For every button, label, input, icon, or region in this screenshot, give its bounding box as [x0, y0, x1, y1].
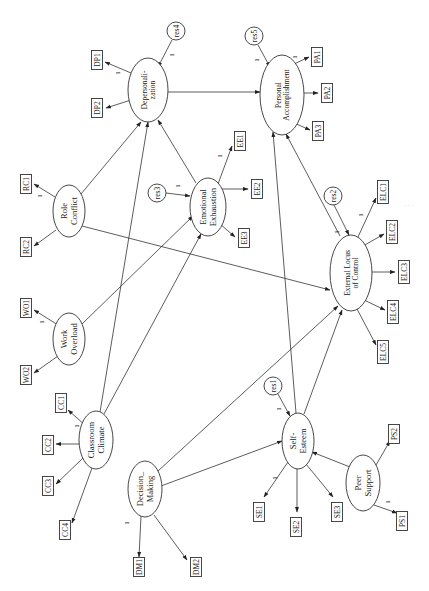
- indicator-label-text: PA2: [323, 86, 332, 99]
- indicator-label-text: ELC3: [400, 263, 409, 281]
- svg-text:1: 1: [38, 320, 46, 324]
- indicator-ee2: EE2: [252, 180, 263, 199]
- indicator-elc1: ELC1: [378, 181, 389, 204]
- indicator-label: SE2: [292, 521, 301, 534]
- indicator-ps2: PS2: [389, 425, 400, 444]
- path-dm-to-se: [161, 441, 282, 486]
- indicator-label: CC4: [61, 523, 70, 537]
- indicator-label: RC1: [22, 177, 31, 191]
- indicator-rc1: RC1: [21, 175, 32, 194]
- latent-se: Self-Esteem: [282, 413, 314, 469]
- indicator-label-text: CC3: [44, 479, 53, 493]
- indicator-ee3: EE3: [239, 229, 250, 248]
- svg-text:1: 1: [216, 154, 224, 158]
- path-se-to-elc: [304, 310, 342, 414]
- indicator-ee1: EE1: [235, 132, 246, 151]
- path-ee-to-dp: [158, 120, 196, 183]
- indicator-elc5: ELC5: [378, 341, 389, 364]
- svg-text:1: 1: [291, 55, 299, 59]
- latent-label-text: Decision_: [135, 471, 145, 506]
- indicator-wo1: WO1: [21, 299, 32, 318]
- indicator-se1: SE1: [254, 503, 265, 522]
- latent-label-text: Overload: [69, 322, 79, 354]
- indicator-label: EE3: [240, 231, 249, 244]
- sem-path-diagram: 111111111111111 Depersonali-zationPerson…: [0, 0, 429, 591]
- indicator-label-text: DP2: [93, 101, 102, 115]
- residual-res2: res2: [324, 187, 342, 205]
- svg-text:1: 1: [174, 184, 182, 188]
- fixed-loading-label: 1: [253, 58, 261, 62]
- indicator-label: PS2: [390, 428, 399, 440]
- latent-pa: PersonalAccomplishment: [260, 55, 304, 135]
- indicator-label-text: PA1: [313, 50, 322, 63]
- indicator-label: SE1: [255, 506, 264, 519]
- loading-cc-to-cc4: [72, 468, 92, 523]
- svg-text:1: 1: [36, 194, 44, 198]
- indicator-pa2: PA2: [322, 84, 333, 103]
- loading-ee-to-ee1: [218, 146, 232, 184]
- residual-label-text: res3: [153, 187, 162, 200]
- residual-label: res3: [153, 187, 162, 200]
- loading-dm-to-dm1: [139, 516, 141, 557]
- indicator-dm2: DM2: [191, 558, 202, 577]
- fixed-loading-label: 1: [38, 320, 46, 324]
- fixed-loading-label: 1: [216, 154, 224, 158]
- loading-elc-to-elc5: [357, 309, 376, 345]
- fixed-loading-label: 1: [291, 55, 299, 59]
- loading-elc-to-elc4: [364, 300, 385, 310]
- svg-text:1: 1: [357, 213, 365, 217]
- indicator-label-text: EE3: [240, 231, 249, 244]
- indicator-label-text: DM1: [135, 559, 144, 575]
- residual-res3-to-ee: [166, 193, 190, 196]
- indicator-pa1: PA1: [312, 48, 323, 67]
- latent-dp: Depersonali-zation: [128, 58, 168, 122]
- fixed-loading-label: 1: [384, 500, 392, 504]
- latent-rc: RoleConflict: [53, 185, 85, 237]
- indicator-label-text: SE1: [255, 506, 264, 519]
- latent-label: EmotionalExhaustion: [198, 187, 218, 226]
- path-ps-to-se: [312, 452, 350, 467]
- indicator-wo2: WO2: [21, 366, 32, 385]
- indicator-label: ELC3: [400, 263, 409, 281]
- loading-rc-to-rc2: [34, 230, 56, 246]
- indicator-label-text: DM2: [192, 559, 201, 575]
- loading-dp-to-dp2: [106, 100, 131, 108]
- loading-cc-to-cc3: [56, 458, 83, 484]
- svg-text:1: 1: [333, 230, 341, 234]
- fixed-loading-label: 1: [36, 194, 44, 198]
- indicator-label-text: ELC1: [379, 183, 388, 201]
- indicator-label-text: PA3: [314, 124, 323, 137]
- loading-ps-to-ps1: [374, 505, 397, 513]
- indicator-label-text: EE1: [236, 134, 245, 147]
- latent-label: Decision_Making: [135, 471, 155, 506]
- residual-label-text: res4: [172, 25, 181, 38]
- residual-res3: res3: [148, 184, 166, 202]
- svg-text:1: 1: [384, 500, 392, 504]
- indicator-label-text: WO1: [22, 300, 31, 316]
- fixed-loading-label: 1: [333, 230, 341, 234]
- residual-res5: res5: [245, 27, 263, 45]
- residual-label: res5: [250, 30, 259, 43]
- fixed-loading-label: 1: [123, 521, 131, 525]
- loading-wo-to-wo2: [34, 356, 58, 373]
- latent-label-text: of Control: [351, 257, 360, 288]
- indicator-label: WO1: [22, 300, 31, 316]
- loading-se-to-se3: [306, 464, 333, 497]
- latent-dm: Decision_Making: [128, 461, 162, 517]
- indicator-dm1: DM1: [134, 558, 145, 577]
- indicator-dp2: DP2: [92, 99, 103, 118]
- indicator-label: EE2: [253, 182, 262, 195]
- svg-text:1: 1: [253, 58, 261, 62]
- latent-label-text: Accomplishment: [282, 68, 291, 120]
- fixed-loading-label: 1: [168, 53, 176, 57]
- svg-text:1: 1: [168, 53, 176, 57]
- loading-dm-to-dm2: [154, 515, 187, 560]
- indicator-dp1: DP1: [92, 51, 103, 70]
- latent-label-text: Exhaustion: [208, 187, 218, 226]
- latent-label-text: Making: [145, 475, 155, 502]
- latent-label-text: Emotional: [198, 189, 208, 225]
- indicator-label-text: CC4: [61, 523, 70, 537]
- latent-label-text: Esteem: [298, 428, 308, 453]
- indicator-label: ELC4: [389, 303, 398, 321]
- latent-label-text: Self-: [288, 433, 298, 450]
